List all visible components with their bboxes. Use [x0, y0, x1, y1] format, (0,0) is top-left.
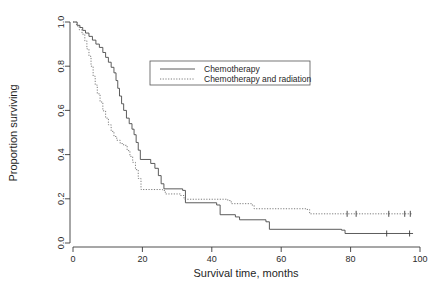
survival-curve-chemotherapy	[73, 22, 413, 233]
x-tick-label: 0	[70, 254, 75, 264]
x-tick-label: 40	[207, 254, 217, 264]
chart-legend: ChemotherapyChemotherapy and radiation	[150, 61, 312, 85]
survival-curves	[73, 22, 413, 233]
x-tick-label: 80	[346, 254, 356, 264]
y-tick-label: 0.8	[56, 60, 66, 73]
y-axis: 0.00.20.40.60.81.0	[56, 16, 70, 250]
y-tick-label: 0.4	[56, 148, 66, 161]
survival-curve-chemo-radiation	[73, 22, 413, 214]
legend-label: Chemotherapy and radiation	[204, 74, 312, 84]
legend-label: Chemotherapy	[204, 64, 261, 74]
censoring-marks	[347, 211, 410, 237]
x-tick-label: 20	[137, 254, 147, 264]
y-tick-label: 1.0	[56, 16, 66, 29]
y-tick-label: 0.6	[56, 104, 66, 117]
y-tick-label: 0.2	[56, 193, 66, 206]
survival-chart-figure: 0.00.20.40.60.81.0 020406080100 Chemothe…	[0, 0, 445, 288]
x-tick-label: 60	[276, 254, 286, 264]
x-axis-title: Survival time, months	[193, 267, 299, 279]
x-axis: 020406080100	[70, 247, 427, 264]
y-axis-title: Proportion surviving	[7, 84, 19, 181]
kaplan-meier-plot: 0.00.20.40.60.81.0 020406080100 Chemothe…	[0, 0, 445, 288]
x-tick-label: 100	[412, 254, 427, 264]
y-tick-label: 0.0	[56, 237, 66, 250]
